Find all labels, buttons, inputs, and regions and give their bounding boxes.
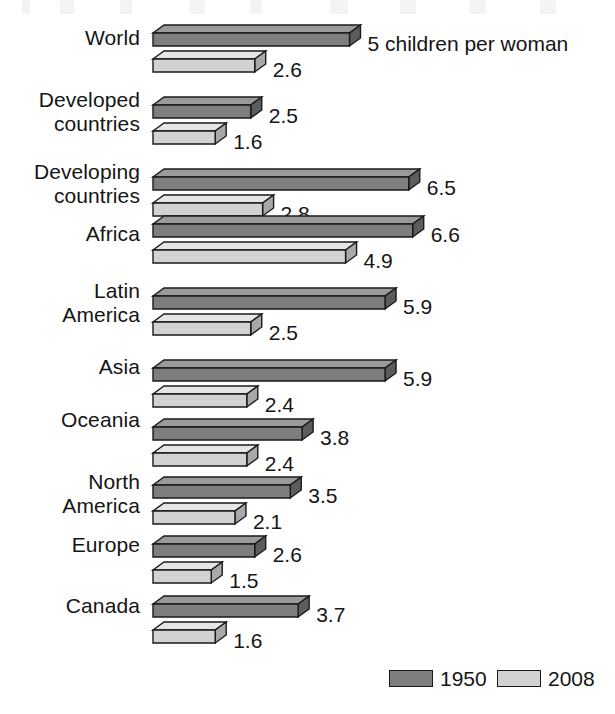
bar-2008 (152, 502, 235, 522)
bar-1950 (152, 96, 251, 116)
bar-top-face (153, 97, 262, 105)
bar-2008 (152, 444, 247, 464)
bar-top-face (153, 622, 226, 630)
bar-value-label: 3.8 (320, 427, 349, 448)
legend-item-2008: 2008 (497, 668, 595, 689)
bar-2008 (152, 313, 251, 333)
bar-front-face (153, 570, 211, 583)
legend-item-1950: 1950 (389, 668, 487, 689)
bar-2008 (152, 122, 215, 142)
bar-1950 (152, 287, 385, 307)
bar-front-face (153, 630, 215, 643)
bar-3d-shape (152, 287, 398, 310)
bar-value-label: 5 children per woman (368, 33, 569, 54)
bar-top-face (153, 360, 396, 368)
category-label-line2: America (0, 494, 140, 518)
bar-3d-shape (152, 96, 264, 119)
category-label-line1: Africa (86, 222, 140, 245)
bar-top-face (153, 51, 266, 59)
bar-top-face (153, 596, 309, 604)
bar-top-face (153, 503, 246, 511)
bar-3d-shape (152, 595, 311, 618)
category-label-line1: Latin (94, 279, 140, 302)
bar-front-face (153, 250, 346, 263)
bar-front-face (153, 177, 409, 190)
category-label-line1: World (85, 26, 140, 49)
bar-3d-shape (152, 359, 398, 382)
bar-2008 (152, 561, 211, 581)
category-label: Europe (0, 533, 140, 557)
legend-label-2008: 2008 (548, 668, 595, 689)
category-label: World (0, 26, 140, 50)
category-label-line1: Europe (72, 533, 140, 556)
scan-artifact (0, 0, 615, 14)
bar-top-face (153, 386, 258, 394)
category-label: Developedcountries (0, 88, 140, 136)
category-label-line1: Asia (99, 355, 140, 378)
bar-1950 (152, 418, 302, 438)
bar-front-face (153, 544, 255, 557)
bar-value-label: 2.4 (265, 394, 294, 415)
bar-3d-shape (152, 122, 228, 145)
bar-front-face (153, 322, 251, 335)
bar-value-label: 5.9 (403, 296, 432, 317)
bar-front-face (153, 131, 215, 144)
bar-value-label: 1.6 (233, 630, 262, 651)
bar-value-label: 6.6 (431, 224, 460, 245)
bar-3d-shape (152, 194, 276, 217)
bar-1950 (152, 359, 385, 379)
legend-swatch-2008 (497, 670, 541, 687)
bar-1950 (152, 535, 255, 555)
bar-top-face (153, 195, 274, 203)
category-label: NorthAmerica (0, 470, 140, 518)
bar-3d-shape (152, 241, 359, 264)
category-label: LatinAmerica (0, 279, 140, 327)
category-label-line1: North (88, 470, 140, 493)
bar-3d-shape (152, 50, 268, 73)
fertility-bar-chart: World5 children per woman2.6Developedcou… (0, 0, 615, 714)
bar-2008 (152, 385, 247, 405)
bar-top-face (153, 477, 301, 485)
bar-value-label: 2.6 (273, 59, 302, 80)
category-label-line1: Developed (39, 88, 140, 111)
bar-3d-shape (152, 535, 268, 558)
category-label: Africa (0, 222, 140, 246)
bar-value-label: 1.6 (233, 131, 262, 152)
bar-1950 (152, 215, 413, 235)
bar-2008 (152, 241, 346, 261)
bar-3d-shape (152, 168, 422, 191)
bar-3d-shape (152, 476, 303, 499)
bar-top-face (153, 25, 361, 33)
bar-3d-shape (152, 24, 363, 47)
bar-value-label: 6.5 (427, 177, 456, 198)
bar-2008 (152, 621, 215, 641)
category-label-line2: countries (0, 184, 140, 208)
bar-top-face (153, 314, 262, 322)
bar-3d-shape (152, 418, 315, 441)
category-label: Oceania (0, 408, 140, 432)
bar-top-face (153, 419, 313, 427)
bar-top-face (153, 169, 420, 177)
bar-2008 (152, 194, 263, 214)
bar-3d-shape (152, 561, 224, 584)
bar-top-face (153, 123, 226, 131)
bar-front-face (153, 105, 251, 118)
bar-value-label: 2.5 (269, 322, 298, 343)
category-label-line2: America (0, 303, 140, 327)
bar-3d-shape (152, 215, 426, 238)
bar-front-face (153, 296, 385, 309)
category-label-line1: Canada (66, 594, 140, 617)
category-label: Developingcountries (0, 160, 140, 208)
bar-top-face (153, 288, 396, 296)
bar-front-face (153, 453, 247, 466)
bar-top-face (153, 242, 357, 250)
bar-3d-shape (152, 621, 228, 644)
category-label: Asia (0, 355, 140, 379)
bar-1950 (152, 595, 298, 615)
bar-2008 (152, 50, 255, 70)
bar-top-face (153, 216, 424, 224)
bar-front-face (153, 427, 302, 440)
legend-label-1950: 1950 (440, 668, 487, 689)
bar-value-label: 2.5 (269, 105, 298, 126)
bar-value-label: 2.4 (265, 453, 294, 474)
